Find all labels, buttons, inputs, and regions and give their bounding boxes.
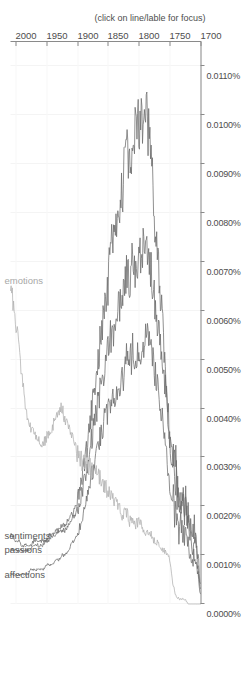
year-tick-0: [200, 42, 201, 46]
value-tick-11: [200, 65, 204, 66]
series-label-emotions[interactable]: emotions: [4, 276, 43, 286]
ngram-chart: 0.0000%0.0010%0.0020%0.0030%0.0040%0.005…: [0, 0, 251, 690]
year-tick-3: [107, 42, 108, 46]
value-tick-6: [200, 310, 204, 311]
year-axis-label-2: 1800: [138, 31, 159, 41]
value-tick-4: [200, 408, 204, 409]
year-tick-2: [138, 42, 139, 46]
value-axis-label-6: 0.0060%: [206, 316, 240, 326]
value-tick-9: [200, 163, 204, 164]
value-axis-line: [200, 42, 201, 604]
value-axis-label-8: 0.0080%: [206, 218, 240, 228]
year-tick-4: [77, 42, 78, 46]
value-tick-1: [200, 554, 204, 555]
year-axis-label-4: 1900: [77, 31, 98, 41]
year-axis-label-0: 1700: [200, 31, 221, 41]
value-tick-7: [200, 261, 204, 262]
value-axis-label-0: 0.0000%: [206, 609, 240, 619]
value-tick-10: [200, 114, 204, 115]
value-axis-label-10: 0.0100%: [206, 120, 240, 130]
value-axis-label-11: 0.0110%: [206, 71, 239, 81]
series-label-passions[interactable]: passions: [4, 545, 42, 555]
value-tick-0: [200, 603, 204, 604]
year-tick-6: [15, 42, 16, 46]
value-axis-label-3: 0.0030%: [206, 462, 240, 472]
value-tick-8: [200, 212, 204, 213]
axis-hint-text: (click on line/lable for focus): [94, 13, 205, 23]
value-tick-2: [200, 505, 204, 506]
value-axis-label-2: 0.0020%: [206, 511, 240, 521]
value-axis-label-1: 0.0010%: [206, 560, 240, 570]
value-axis-label-9: 0.0090%: [206, 169, 240, 179]
year-axis-label-3: 1850: [107, 31, 128, 41]
value-axis-label-7: 0.0070%: [206, 267, 240, 277]
series-line-sentiments[interactable]: [10, 92, 200, 589]
chart-rotation-wrapper: 0.0000%0.0010%0.0020%0.0030%0.0040%0.005…: [0, 0, 251, 690]
year-axis-label-1: 1750: [169, 31, 190, 41]
year-axis-label-5: 1950: [46, 31, 67, 41]
year-tick-1: [169, 42, 170, 46]
value-tick-3: [200, 456, 204, 457]
year-tick-5: [46, 42, 47, 46]
series-label-sentiments[interactable]: sentiments: [4, 531, 50, 541]
year-axis-label-6: 2000: [15, 31, 36, 41]
value-axis-label-4: 0.0040%: [206, 414, 240, 424]
year-axis-line: [10, 41, 201, 42]
series-lines-layer: [0, 0, 251, 690]
series-label-affections[interactable]: affections: [4, 570, 45, 580]
value-axis-label-5: 0.0050%: [206, 365, 240, 375]
value-tick-5: [200, 359, 204, 360]
